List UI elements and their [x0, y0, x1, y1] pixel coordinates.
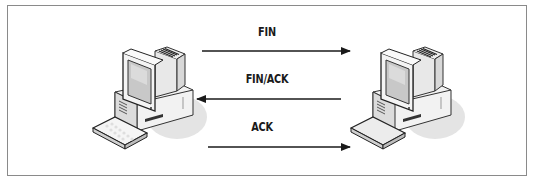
right-computer	[343, 45, 473, 155]
desktop-computer-icon	[93, 47, 207, 149]
left-computer	[85, 45, 215, 155]
desktop-computer-icon	[351, 47, 465, 149]
fin-ack-label: FIN/ACK	[228, 72, 306, 86]
ack-label: ACK	[223, 120, 301, 134]
fin-label: FIN	[228, 25, 306, 39]
